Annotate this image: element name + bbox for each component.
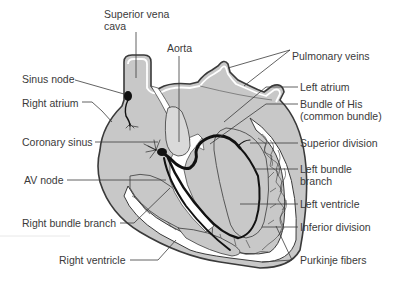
label-right-bundle-branch: Right bundle branch xyxy=(22,217,116,229)
label-left-ventricle: Left ventricle xyxy=(300,198,360,210)
label-av-node: AV node xyxy=(24,174,64,186)
label-bundle-of-his-1: Bundle of His xyxy=(300,98,362,110)
label-right-atrium: Right atrium xyxy=(22,97,79,109)
label-pulmonary-veins: Pulmonary veins xyxy=(292,50,370,62)
label-superior-vena-cava-2: cava xyxy=(104,20,126,32)
label-bundle-of-his-2: (common bundle) xyxy=(300,110,382,122)
heart-conduction-diagram: Superior vena cava Aorta Pulmonary veins… xyxy=(0,0,395,284)
label-inferior-division: Inferior division xyxy=(300,221,371,233)
label-left-atrium: Left atrium xyxy=(300,81,350,93)
label-coronary-sinus: Coronary sinus xyxy=(22,136,93,148)
label-aorta: Aorta xyxy=(167,42,192,54)
label-superior-division: Superior division xyxy=(300,137,378,149)
label-left-bundle-branch-2: branch xyxy=(300,175,332,187)
label-superior-vena-cava-1: Superior vena xyxy=(104,8,169,20)
label-right-ventricle: Right ventricle xyxy=(59,254,126,266)
label-purkinje-fibers: Purkinje fibers xyxy=(300,254,367,266)
label-sinus-node: Sinus node xyxy=(22,73,75,85)
label-left-bundle-branch-1: Left bundle xyxy=(300,163,352,175)
